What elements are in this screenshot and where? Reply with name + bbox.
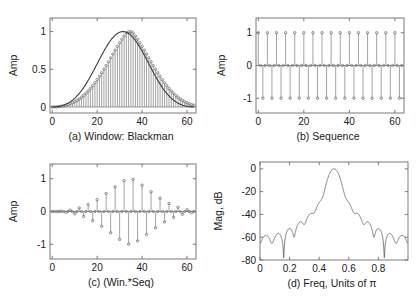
plot-c: 0204060-101Amp(c) (Win.*Seq) [0, 147, 208, 297]
plot-b: 0204060-101Amp(b) Sequence [208, 0, 416, 150]
caption-a: (a) Window: Blackman [68, 130, 173, 142]
subplot-c-window-times-sequence: 0204060-101Amp(c) (Win.*Seq) [0, 147, 208, 297]
yticklabel-a-2: 1 [40, 26, 46, 37]
xticklabel-b-2: 40 [344, 116, 356, 127]
yticklabel-c-0: -1 [37, 239, 46, 250]
stem-series-c [51, 178, 195, 245]
xticklabel-c-1: 20 [92, 262, 104, 273]
yticklabel-b-1: 0 [246, 60, 252, 71]
yticklabel-a-0: 0 [40, 102, 46, 113]
xticklabel-d-0: 0 [257, 263, 263, 274]
xticklabel-b-0: 0 [255, 116, 261, 127]
xticklabel-c-3: 60 [181, 262, 193, 273]
ylabel-d: Mag, dB [212, 191, 224, 230]
yticklabel-d-4: 0 [250, 163, 256, 174]
window-envelope-curve [52, 32, 194, 107]
ylabel-a: Amp [7, 55, 19, 77]
caption-c: (c) (Win.*Seq) [88, 276, 154, 288]
plot-a: 020406000.51Amp(a) Window: Blackman [0, 0, 208, 150]
xticklabel-d-3: 0.6 [342, 263, 356, 274]
caption-b: (b) Sequence [296, 130, 359, 142]
subplot-b-sequence: 0204060-101Amp(b) Sequence [208, 0, 416, 150]
subplot-d-magnitude-response: 00.20.40.60.8-80-60-40-200Mag, dB(d) Fre… [208, 147, 416, 297]
caption-d: (d) Freq, Units of π [288, 277, 377, 289]
xticklabel-d-2: 0.4 [312, 263, 326, 274]
xticklabel-a-0: 0 [49, 116, 55, 127]
xticklabel-d-4: 0.8 [371, 263, 385, 274]
yticklabel-d-3: -20 [242, 186, 257, 197]
stem-series-b [257, 31, 403, 99]
yticklabel-d-1: -60 [242, 232, 257, 243]
xticklabel-a-3: 60 [181, 116, 193, 127]
xticklabel-a-2: 40 [137, 116, 149, 127]
xticklabel-c-2: 40 [137, 262, 149, 273]
yticklabel-c-1: 0 [40, 206, 46, 217]
axes-box-a [50, 18, 196, 113]
ylabel-c: Amp [7, 201, 19, 223]
yticklabel-b-2: 1 [246, 27, 252, 38]
stem-series-a [51, 30, 195, 108]
axes-box-d [260, 162, 408, 260]
xticklabel-b-3: 60 [389, 116, 401, 127]
yticklabel-d-2: -40 [242, 209, 257, 220]
yticklabel-c-2: 1 [40, 173, 46, 184]
plot-d: 00.20.40.60.8-80-60-40-200Mag, dB(d) Fre… [208, 147, 416, 297]
xticklabel-c-0: 0 [49, 262, 55, 273]
xticklabel-d-1: 0.2 [283, 263, 297, 274]
xticklabel-a-1: 20 [92, 116, 104, 127]
subplot-a-window-blackman: 020406000.51Amp(a) Window: Blackman [0, 0, 208, 150]
yticklabel-a-1: 0.5 [32, 64, 46, 75]
yticklabel-d-0: -80 [242, 255, 257, 266]
figure-canvas: 020406000.51Amp(a) Window: Blackman 0204… [0, 0, 416, 297]
magnitude-response-curve [260, 169, 408, 258]
xticklabel-b-1: 20 [298, 116, 310, 127]
ylabel-b: Amp [215, 55, 227, 77]
yticklabel-b-0: -1 [243, 93, 252, 104]
